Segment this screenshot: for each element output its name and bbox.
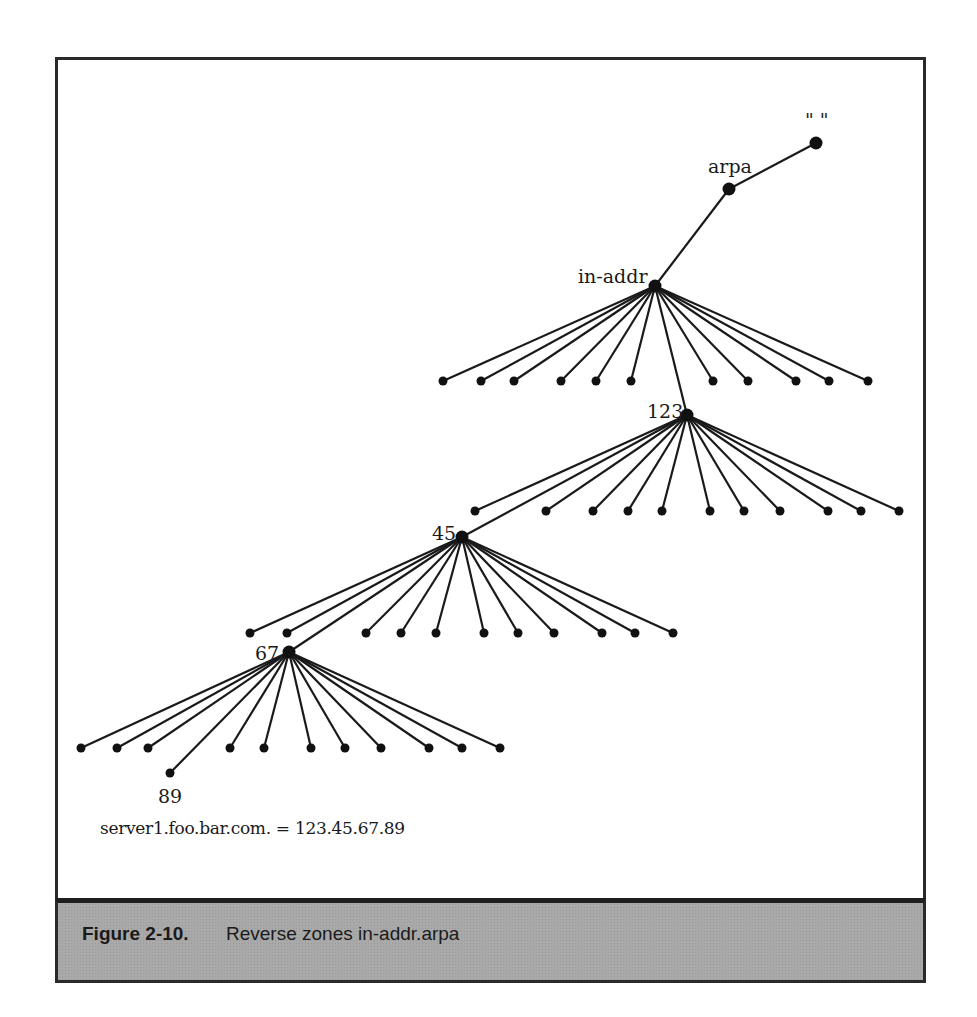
tree-edge [561,286,655,381]
leaf-node [589,507,598,516]
tree-edge [81,652,289,748]
dns-tree-diagram: " "arpain-addr123456789 [0,0,977,1017]
tree-edge [462,537,484,633]
tree-edge [287,537,462,633]
leaf-node [550,629,559,638]
tree-node-root [810,137,823,150]
leaf-node [432,629,441,638]
leaf-node [744,377,753,386]
leaf-node [77,744,86,753]
leaf-node [624,507,633,516]
node-label: 89 [158,785,182,807]
leaf-node [260,744,269,753]
tree-edges [81,143,899,773]
tree-edge [687,415,780,511]
node-label: in-addr [578,265,648,287]
tree-edge [593,415,687,511]
leaf-node [341,744,350,753]
tree-node-67 [283,646,296,659]
node-label: arpa [708,155,752,177]
tree-edge [687,415,744,511]
tree-edge [289,652,462,748]
tree-edge [655,189,729,286]
figure-caption: Reverse zones in-addr.arpa [226,923,459,945]
tree-edge [475,415,687,511]
hostname-ip-mapping: server1.foo.bar.com. = 123.45.67.89 [100,818,405,838]
leaf-node [542,507,551,516]
leaf-node [706,507,715,516]
leaf-node [397,629,406,638]
tree-node-arpa [723,183,736,196]
leaf-node [658,507,667,516]
leaf-node [477,377,486,386]
figure-caption-bar: Figure 2-10. Reverse zones in-addr.arpa [55,898,926,983]
leaf-node [377,744,386,753]
leaf-node [283,629,292,638]
tree-edge [289,652,429,748]
tree-edge [687,415,861,511]
leaf-node [669,629,678,638]
tree-edge [117,652,289,748]
leaf-node [857,507,866,516]
leaf-node [439,377,448,386]
leaf-node [557,377,566,386]
leaf-node [864,377,873,386]
leaf-node [471,507,480,516]
leaf-node [627,377,636,386]
tree-edge [655,286,713,381]
node-label: 123 [647,400,683,422]
node-label: 67 [255,642,279,664]
leaf-node [776,507,785,516]
leaf-node [246,629,255,638]
tree-edge [443,286,655,381]
leaf-node [458,744,467,753]
tree-edge [462,537,554,633]
leaf-node [740,507,749,516]
leaf-node [226,744,235,753]
tree-edge [289,652,311,748]
tree-edge [481,286,655,381]
tree-edge [289,652,381,748]
leaf-node [514,629,523,638]
leaf-node [631,629,640,638]
tree-edge [170,652,289,773]
leaf-node [709,377,718,386]
node-label: " " [805,109,829,131]
leaf-node [144,744,153,753]
leaf-node [792,377,801,386]
tree-edge [687,415,899,511]
tree-edge [366,537,462,633]
leaf-node [480,629,489,638]
tree-edge [462,537,602,633]
leaf-node [425,744,434,753]
leaf-node [362,629,371,638]
leaf-node [895,507,904,516]
tree-edge [655,286,868,381]
tree-node-inaddr [649,280,662,293]
tree-edge [655,286,748,381]
tree-edge [462,537,673,633]
leaf-node [825,377,834,386]
tree-node-89 [166,769,175,778]
node-label: 45 [432,522,456,544]
tree-edge [289,652,500,748]
leaf-node [496,744,505,753]
figure-number: Figure 2-10. [82,923,189,945]
tree-node-45 [456,531,469,544]
leaf-node [598,629,607,638]
leaf-node [592,377,601,386]
tree-edge [462,415,687,537]
leaf-node [510,377,519,386]
leaf-node [307,744,316,753]
leaf-node [113,744,122,753]
tree-edge [687,415,828,511]
tree-edge [462,537,635,633]
leaf-node [824,507,833,516]
tree-edge [655,286,829,381]
